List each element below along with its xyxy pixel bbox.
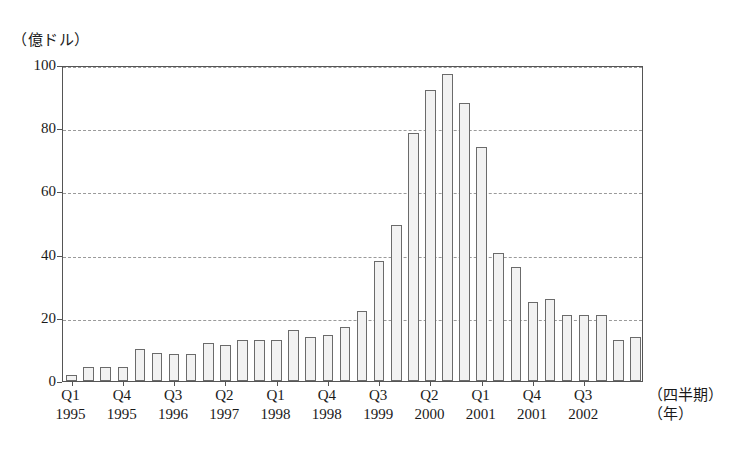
x-tick-year: 1997 [209,405,239,424]
y-tick-label-60: 60 [0,183,56,200]
x-tick-year: 2001 [517,405,547,424]
x-tick-year: 1998 [261,405,291,424]
y-tick-label-80: 80 [0,120,56,137]
x-tick-year: 2001 [466,405,496,424]
x-tick-year: 1995 [107,405,137,424]
x-tick-label: Q31999 [363,386,393,424]
x-tick-label: Q31996 [158,386,188,424]
x-tick-quarter: Q4 [107,386,137,405]
chart-container: （億ドル） 020406080100 Q11995Q41995Q31996Q21… [0,0,752,459]
x-axis-labels: Q11995Q41995Q31996Q21997Q11998Q41998Q319… [0,386,752,446]
y-axis-unit-label: （億ドル） [12,28,90,49]
x-tick-year: 1996 [158,405,188,424]
x-axis-caption: （四半期） （年） [648,386,723,424]
x-tick-marks-layer [63,67,642,381]
x-tick-quarter: Q1 [56,386,86,405]
x-tick-label: Q42001 [517,386,547,424]
y-tick-mark-60 [57,192,62,193]
x-axis-caption-quarter: （四半期） [648,386,723,405]
plot-area [62,66,643,382]
x-tick-year: 1998 [312,405,342,424]
x-tick-quarter: Q4 [312,386,342,405]
y-tick-label-100: 100 [0,57,56,74]
x-tick-quarter: Q2 [414,386,444,405]
x-tick-quarter: Q3 [363,386,393,405]
x-tick-label: Q11995 [56,386,86,424]
x-tick-label: Q11998 [261,386,291,424]
x-tick-quarter: Q4 [517,386,547,405]
y-tick-label-40: 40 [0,247,56,264]
x-tick-quarter: Q2 [209,386,239,405]
x-tick-year: 2002 [568,405,598,424]
x-tick-label: Q41998 [312,386,342,424]
x-tick-quarter: Q1 [466,386,496,405]
x-axis-caption-year: （年） [648,405,723,424]
x-tick-label: Q41995 [107,386,137,424]
y-tick-mark-20 [57,319,62,320]
y-tick-mark-40 [57,256,62,257]
y-tick-mark-0 [57,382,62,383]
x-tick-quarter: Q1 [261,386,291,405]
y-tick-mark-80 [57,129,62,130]
y-tick-label-20: 20 [0,310,56,327]
x-tick-quarter: Q3 [158,386,188,405]
x-tick-quarter: Q3 [568,386,598,405]
x-tick-year: 2000 [414,405,444,424]
x-tick-label: Q21997 [209,386,239,424]
x-tick-label: Q12001 [466,386,496,424]
x-tick-label: Q22000 [414,386,444,424]
x-tick-year: 1995 [56,405,86,424]
x-tick-label: Q32002 [568,386,598,424]
x-tick-year: 1999 [363,405,393,424]
y-tick-mark-100 [57,66,62,67]
